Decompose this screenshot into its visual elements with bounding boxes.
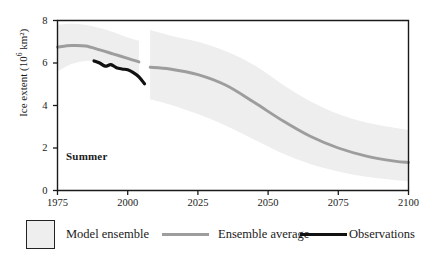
x-tick-label: 2000 xyxy=(108,198,148,209)
x-tick-label: 2050 xyxy=(248,198,288,209)
legend-item[interactable]: Observations xyxy=(300,214,415,254)
y-axis-title-exponent: 6 xyxy=(15,53,24,57)
y-tick-label: 6 xyxy=(30,58,48,69)
legend-swatch-model-ensemble xyxy=(26,220,55,249)
x-tick-label: 1975 xyxy=(38,198,78,209)
x-tick-label: 2025 xyxy=(178,198,218,209)
summer-annotation: Summer xyxy=(66,150,108,162)
x-tick-label: 2100 xyxy=(389,198,429,209)
y-tick-label: 4 xyxy=(30,101,48,112)
y-tick-label: 8 xyxy=(30,16,48,27)
figure: 02468 197520002025205020752100 Summer Ic… xyxy=(0,0,434,262)
legend-label: Ensemble average xyxy=(218,227,309,242)
chart-legend: Model ensembleEnsemble averageObservatio… xyxy=(0,214,434,258)
y-tick-label: 2 xyxy=(30,143,48,154)
y-axis-title-tail: km²) xyxy=(17,29,29,53)
plot-area: 02468 197520002025205020752100 Summer Ic… xyxy=(0,0,434,205)
x-tick-label: 2075 xyxy=(318,198,358,209)
ensemble-band-scenario xyxy=(150,30,408,181)
y-tick-label: 0 xyxy=(30,186,48,197)
legend-label: Observations xyxy=(349,227,415,242)
legend-swatch-ensemble-average xyxy=(162,233,209,236)
y-axis-title: Ice extent (106 km²) xyxy=(15,0,29,148)
legend-label: Model ensemble xyxy=(66,227,149,242)
ensemble-band-group xyxy=(58,24,409,181)
chart-svg xyxy=(0,0,434,205)
legend-swatch-observations xyxy=(300,233,347,236)
legend-item[interactable]: Model ensemble xyxy=(26,214,149,254)
y-axis-title-base: Ice extent (10 xyxy=(17,56,29,116)
legend-item[interactable]: Ensemble average xyxy=(162,214,309,254)
